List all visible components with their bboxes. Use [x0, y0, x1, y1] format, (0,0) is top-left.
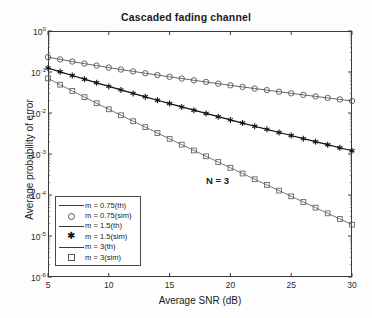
- x-tick-label: 25: [286, 280, 295, 290]
- x-tick-label: 30: [347, 280, 356, 290]
- y-tick-label: 100: [33, 25, 46, 37]
- y-tick-label: 10-4: [31, 189, 46, 201]
- legend-item-label: m = 0.75(th): [85, 201, 126, 210]
- y-tick-label: 10-1: [31, 66, 46, 78]
- legend-item-label: m = 0.75(sim): [85, 211, 132, 220]
- legend-item[interactable]: m = 0.75(sim): [58, 210, 137, 220]
- legend-asterisk-marker-icon: ✱: [58, 231, 85, 241]
- y-tick-label: 10-6: [31, 271, 46, 283]
- x-tick-label: 5: [46, 280, 51, 290]
- legend-item[interactable]: m = 3(sim): [58, 252, 137, 262]
- legend-item-label: m = 1.5(th): [85, 221, 122, 230]
- annotation-n-value: N = 3: [206, 175, 229, 186]
- legend-line-icon: [58, 200, 85, 210]
- legend-square-marker-icon: [58, 252, 85, 262]
- legend-item[interactable]: ✱m = 1.5(sim): [58, 231, 137, 241]
- legend-line-icon: [58, 242, 85, 252]
- page-title: Cascaded fading channel: [0, 11, 372, 23]
- x-tick-label: 10: [104, 280, 113, 290]
- y-tick-label: 10-3: [31, 148, 46, 160]
- x-tick-label: 20: [226, 280, 235, 290]
- x-tick-label: 15: [165, 280, 174, 290]
- chart-figure: Cascaded fading channel Average probabil…: [0, 0, 372, 318]
- legend: m = 0.75(th)m = 0.75(sim)m = 1.5(th)✱m =…: [55, 196, 141, 266]
- legend-circle-marker-icon: [58, 211, 85, 221]
- y-tick-label: 10-2: [31, 107, 46, 119]
- y-axis-ticks: 10010-110-210-310-410-510-6: [0, 0, 46, 318]
- x-axis-label: Average SNR (dB): [48, 295, 352, 306]
- legend-item-label: m = 3(th): [85, 242, 116, 251]
- legend-item[interactable]: m = 3(th): [58, 242, 137, 252]
- legend-item-label: m = 3(sim): [85, 253, 121, 262]
- y-tick-label: 10-5: [31, 230, 46, 242]
- legend-item[interactable]: m = 0.75(th): [58, 200, 137, 210]
- legend-item-label: m = 1.5(sim): [85, 232, 127, 241]
